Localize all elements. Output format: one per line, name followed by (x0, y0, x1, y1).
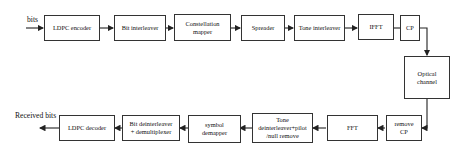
ifft-block: IFFT (358, 14, 394, 40)
ldpc-decoder-block: LDPC decoder (59, 115, 115, 141)
remove-cp-block: remove CP (386, 115, 422, 141)
remove-cp-label: remove CP (394, 120, 413, 136)
bit-deinterleaver-label: Bit deinterleaver + demultiplexer (130, 120, 173, 136)
cp-label: CP (406, 24, 414, 32)
optical-channel-block: Optical channel (404, 56, 450, 99)
tone-interleaver-block: Tone interleaver (294, 15, 345, 41)
ldpc-encoder-label: LDPC encoder (53, 24, 91, 32)
fft-block: FFT (327, 115, 378, 141)
constellation-mapper-block: Constellation mapper (174, 14, 231, 41)
ldpc-encoder-block: LDPC encoder (44, 15, 100, 41)
fft-label: FFT (347, 124, 358, 132)
symbol-demapper-label: symbol demapper (202, 121, 227, 137)
cp-block: CP (400, 15, 420, 41)
bit-deinterleaver-block: Bit deinterleaver + demultiplexer (122, 115, 180, 141)
tone-deinterleaver-label: Tone deinterleaver+pilot /null remove (258, 116, 307, 140)
received-bits-label: Received bits (15, 111, 56, 120)
spreader-label: Spreader (252, 24, 275, 32)
constellation-mapper-label: Constellation mapper (185, 20, 219, 36)
input-bits-label: bits (27, 15, 38, 24)
bit-interleaver-block: Bit interleaver (114, 15, 166, 41)
tone-deinterleaver-block: Tone deinterleaver+pilot /null remove (252, 113, 313, 143)
spreader-block: Spreader (241, 15, 285, 41)
bit-interleaver-label: Bit interleaver (122, 24, 159, 32)
ifft-label: IFFT (369, 23, 382, 31)
symbol-demapper-block: symbol demapper (188, 115, 241, 143)
ldpc-decoder-label: LDPC decoder (68, 124, 106, 132)
tone-interleaver-label: Tone interleaver (299, 24, 341, 32)
optical-channel-label: Optical channel (417, 70, 437, 86)
